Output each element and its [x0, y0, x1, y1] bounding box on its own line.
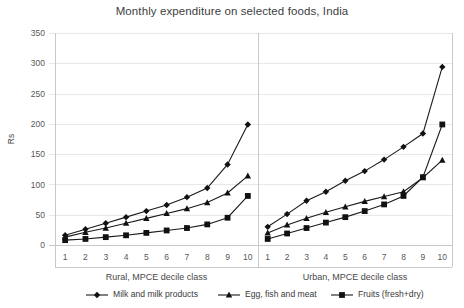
x-axis-tick-label: 4 [324, 252, 329, 262]
data-point-marker [184, 194, 190, 200]
data-point-marker [143, 230, 149, 236]
data-point-marker [245, 121, 251, 127]
x-axis-tick-label: 7 [185, 252, 190, 262]
data-point-marker [204, 222, 210, 228]
series-line [268, 160, 443, 233]
data-point-marker [304, 225, 310, 231]
x-axis-tick-label: 9 [225, 252, 230, 262]
series-triangle [265, 157, 446, 236]
x-axis-tick-label: 6 [164, 252, 169, 262]
legend-label: Egg, fish and meat [245, 289, 317, 299]
data-point-marker [284, 231, 290, 237]
legend-label: Fruits (fresh+dry) [358, 289, 424, 299]
data-point-marker [303, 198, 309, 204]
data-point-marker [184, 225, 190, 231]
series-diamond [62, 121, 251, 238]
data-point-marker [420, 174, 426, 180]
x-axis-tick-label: 1 [63, 252, 68, 262]
data-point-marker [381, 156, 387, 162]
legend-item[interactable]: Milk and milk products [86, 289, 198, 299]
x-axis-tick-label: 8 [205, 252, 210, 262]
x-axis-tick-label: 3 [304, 252, 309, 262]
data-point-marker [265, 236, 271, 242]
data-point-marker [62, 237, 68, 243]
chart-title: Monthly expenditure on selected foods, I… [0, 5, 464, 17]
x-axis-tick-label: 1 [265, 252, 270, 262]
series-diamond [265, 64, 446, 230]
y-axis-tick-label: 300 [31, 58, 45, 68]
data-point-marker [400, 144, 406, 150]
x-axis-tick-label: 10 [243, 252, 253, 262]
x-axis-tick-label: 5 [144, 252, 149, 262]
data-point-marker [401, 193, 407, 199]
y-axis-tick-label: 250 [31, 89, 45, 99]
x-axis-tick-label: 3 [103, 252, 108, 262]
panels-group: 12345678910Rural, MPCE decile class12345… [62, 64, 447, 282]
data-point-marker [164, 228, 170, 234]
data-point-marker [420, 130, 426, 136]
data-point-marker [143, 208, 149, 214]
data-point-marker [225, 215, 231, 221]
data-point-marker [323, 188, 329, 194]
data-point-marker [83, 236, 89, 242]
x-axis-title: Urban, MPCE decile class [303, 272, 408, 282]
legend-item[interactable]: Fruits (fresh+dry) [331, 289, 424, 299]
data-point-marker [439, 64, 445, 70]
series-square [62, 193, 251, 243]
panel-rural: 12345678910Rural, MPCE decile class [62, 121, 253, 282]
x-axis-tick-label: 2 [83, 252, 88, 262]
series-triangle [62, 173, 251, 240]
y-axis-tick-label: 150 [31, 149, 45, 159]
series-line [65, 196, 248, 240]
x-axis-title: Rural, MPCE decile class [106, 272, 208, 282]
x-axis-tick-label: 7 [382, 252, 387, 262]
x-axis-tick-label: 10 [438, 252, 448, 262]
data-point-marker [163, 202, 169, 208]
y-axis-group: 050100150200250300350Rs [6, 28, 45, 250]
data-point-marker [342, 214, 348, 220]
y-axis-tick-label: 200 [31, 119, 45, 129]
data-point-marker [245, 193, 251, 199]
data-point-marker [94, 292, 100, 298]
data-point-marker [245, 173, 251, 179]
y-axis-tick-label: 0 [40, 240, 45, 250]
panel-urban: 12345678910Urban, MPCE decile class [265, 64, 448, 282]
data-point-marker [265, 224, 271, 230]
legend-group: Milk and milk productsEgg, fish and meat… [86, 289, 424, 299]
data-point-marker [339, 292, 345, 298]
x-axis-tick-label: 4 [124, 252, 129, 262]
data-point-marker [362, 208, 368, 214]
data-point-marker [103, 234, 109, 240]
x-axis-tick-label: 6 [362, 252, 367, 262]
chart-canvas: 050100150200250300350Rs 12345678910Rural… [0, 0, 464, 308]
legend-item[interactable]: Egg, fish and meat [218, 289, 317, 299]
series-line [65, 124, 248, 235]
data-point-marker [123, 232, 129, 238]
data-point-marker [284, 211, 290, 217]
x-axis-tick-label: 9 [421, 252, 426, 262]
data-point-marker [439, 122, 445, 128]
y-axis-tick-label: 350 [31, 28, 45, 38]
data-point-marker [342, 178, 348, 184]
x-axis-tick-label: 5 [343, 252, 348, 262]
data-point-marker [362, 168, 368, 174]
data-point-marker [381, 202, 387, 208]
y-axis-tick-label: 50 [36, 210, 46, 220]
series-line [268, 124, 443, 238]
x-axis-tick-label: 8 [401, 252, 406, 262]
data-point-marker [439, 157, 445, 163]
data-point-marker [204, 199, 210, 205]
gridlines-group [49, 33, 453, 268]
x-axis-tick-label: 2 [285, 252, 290, 262]
y-axis-title: Rs [6, 134, 16, 144]
series-line [268, 67, 443, 227]
legend-label: Milk and milk products [113, 289, 198, 299]
chart-container: Monthly expenditure on selected foods, I… [0, 0, 464, 308]
y-axis-tick-label: 100 [31, 180, 45, 190]
data-point-marker [323, 220, 329, 226]
